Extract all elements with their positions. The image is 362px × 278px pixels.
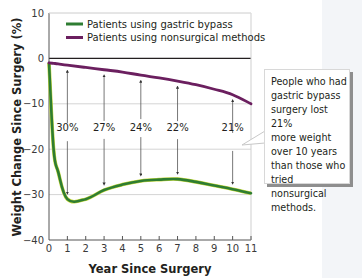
difference-label: 27%: [93, 122, 115, 133]
callout-pointer-shape: [242, 131, 265, 145]
callout-box: People who had gastric bypass surgery lo…: [264, 69, 350, 184]
legend-label: Patients using nonsurgical methods: [87, 32, 265, 43]
y-axis-title: Weight Change Since Surgery (%): [10, 18, 24, 237]
x-tick-label: 9: [211, 243, 217, 254]
difference-label: 21%: [222, 122, 244, 133]
x-tick-label: 8: [193, 243, 199, 254]
y-tick-label: −40: [23, 235, 44, 246]
x-tick-label: 5: [138, 243, 144, 254]
x-tick-label: 3: [101, 243, 107, 254]
legend-label: Patients using gastric bypass: [87, 19, 233, 30]
x-tick-label: 6: [156, 243, 162, 254]
callout-pointer: [242, 131, 265, 145]
y-tick-label: 10: [31, 8, 44, 19]
x-axis-ticks: 01234567891011: [46, 236, 258, 254]
callout-text: People who had gastric bypass surgery lo…: [271, 75, 349, 215]
y-tick-label: −20: [23, 144, 44, 155]
y-tick-label: 0: [38, 53, 44, 64]
y-axis-ticks: 100−10−20−30−40: [23, 8, 44, 246]
x-tick-label: 2: [83, 243, 89, 254]
y-tick-label: −30: [23, 189, 44, 200]
legend: Patients using gastric bypassPatients us…: [66, 19, 265, 44]
x-tick-label: 11: [245, 243, 258, 254]
x-tick-label: 7: [174, 243, 180, 254]
x-axis-title: Year Since Surgery: [88, 262, 212, 276]
x-tick-label: 0: [46, 243, 52, 254]
difference-label: 30%: [56, 122, 78, 133]
difference-label: 22%: [166, 122, 188, 133]
x-tick-label: 10: [226, 243, 239, 254]
x-tick-label: 1: [64, 243, 70, 254]
x-tick-label: 4: [119, 243, 125, 254]
nonsurgical-line: [49, 63, 251, 104]
difference-label: 24%: [130, 122, 152, 133]
y-tick-label: −10: [23, 98, 44, 109]
